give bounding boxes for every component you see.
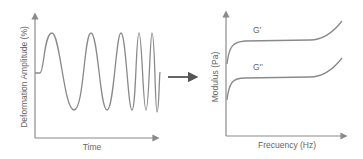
g-prime-curve: [227, 21, 342, 64]
right-y-label: Modulus (Pa): [210, 52, 220, 103]
right-x-label: Frecuency (Hz): [258, 140, 316, 150]
diagram: Deformation Amplitude (%) Time G' G'' Mo…: [0, 0, 363, 159]
g-prime-label: G': [253, 25, 262, 35]
left-y-label: Deformation Amplitude (%): [19, 26, 29, 128]
left-x-label: Time: [83, 142, 102, 152]
left-chart: Deformation Amplitude (%) Time: [19, 16, 160, 152]
chirp-waveform: [35, 33, 160, 112]
g-double-prime-curve: [227, 58, 342, 100]
right-chart: G' G'' Modulus (Pa) Frecuency (Hz): [210, 14, 344, 150]
g-double-prime-label: G'': [253, 62, 263, 72]
